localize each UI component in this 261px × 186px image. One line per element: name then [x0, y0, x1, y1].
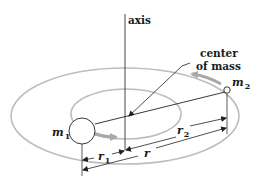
orbit-diagram: axis center of mass m1 m2 r1 r2 r: [0, 0, 261, 186]
axis-label: axis: [128, 14, 151, 26]
r1-dimension-right: [112, 151, 124, 154]
r-label: r: [144, 147, 151, 160]
center-of-mass-pointer: [129, 66, 182, 116]
mass-1: [69, 118, 95, 144]
m2-label: m2: [232, 76, 250, 91]
r1-label: r1: [98, 150, 110, 165]
m1-label: m1: [52, 126, 70, 141]
center-of-mass-label: center: [200, 47, 238, 59]
center-of-mass-label-2: of mass: [196, 60, 241, 72]
mass-connector-line: [95, 92, 225, 124]
mass-2: [224, 87, 230, 93]
center-of-mass-pointer-tick: [182, 63, 190, 66]
r1-dimension-left: [83, 158, 94, 160]
m1-motion-arrow: [93, 133, 116, 137]
r2-dimension-right: [190, 118, 226, 126]
r2-label: r2: [177, 124, 189, 139]
